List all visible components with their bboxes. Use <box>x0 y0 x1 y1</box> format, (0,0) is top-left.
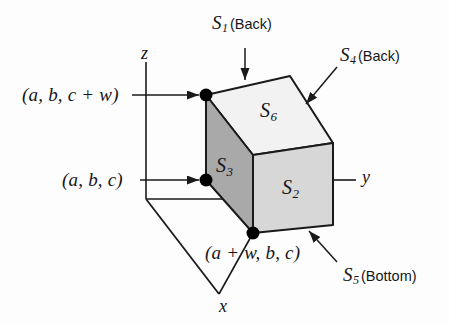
face-s6-subscript: 6 <box>270 109 277 124</box>
vertex-label-top-left: (a, b, c + w) <box>22 85 119 104</box>
callout-s4-suffix: (Back) <box>356 48 400 64</box>
face-label-s3: S3 <box>216 155 233 178</box>
arrow-s4-back <box>306 67 337 104</box>
callout-s4-symbol: S <box>340 44 350 65</box>
box-surface-diagram: S1(Back) S4(Back) S5(Bottom) S6 S3 S2 (a… <box>0 0 449 325</box>
vertex-label-bottom: (a + w, b, c) <box>205 243 300 262</box>
face-s6-symbol: S <box>260 99 270 121</box>
callout-s5-symbol: S <box>343 264 353 285</box>
face-label-s6: S6 <box>260 100 277 123</box>
callout-s1-symbol: S <box>212 12 222 33</box>
arrow-s5-bottom <box>309 231 337 262</box>
face-s3-subscript: 3 <box>226 164 233 179</box>
vertex-label-mid-left: (a, b, c) <box>62 170 123 189</box>
vertex-dot-bottom <box>247 227 260 240</box>
face-s2-subscript: 2 <box>292 186 299 201</box>
callout-s5-suffix: (Bottom) <box>359 268 417 284</box>
axis-label-x: x <box>219 297 227 315</box>
axis-label-y: y <box>362 168 370 186</box>
callout-s1-suffix: (Back) <box>228 16 272 32</box>
face-s3-symbol: S <box>216 154 226 176</box>
vertex-dot-mid-left <box>200 174 213 187</box>
callout-label-s5: S5(Bottom) <box>343 265 417 286</box>
face-s2-symbol: S <box>282 176 292 198</box>
callout-label-s4: S4(Back) <box>340 45 400 66</box>
vertex-dot-top-left <box>200 89 213 102</box>
face-label-s2: S2 <box>282 177 299 200</box>
callout-label-s1: S1(Back) <box>212 13 272 34</box>
axis-label-z: z <box>141 44 148 62</box>
